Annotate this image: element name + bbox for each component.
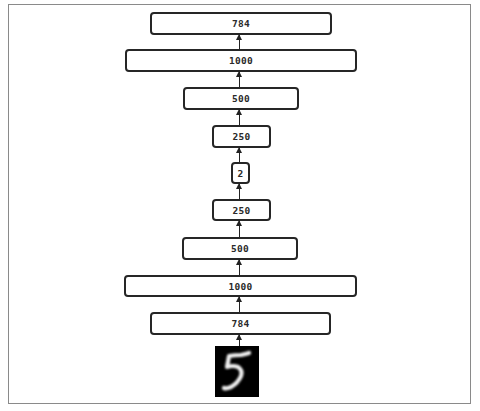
arrow-up-icon [239,297,240,312]
layer-label: 784 [231,318,249,329]
arrow-up-icon [239,184,240,199]
layer-label: 500 [231,243,249,254]
layer-encoder-1: 1000 [124,275,357,297]
arrow-up-icon [239,335,240,346]
layer-code: 2 [231,162,250,184]
layer-label: 784 [232,18,250,29]
mnist-digit-5-icon [215,346,259,397]
layer-decoder-3: 1000 [125,49,357,72]
layer-encoder-2: 500 [182,237,298,260]
layer-decoder-1: 250 [212,125,271,148]
layer-label: 1000 [229,55,253,66]
layer-encoder-3: 250 [212,199,271,221]
arrow-up-icon [239,148,240,162]
layer-input: 784 [150,312,331,335]
layer-decoder-2: 500 [183,87,299,110]
layer-label: 500 [232,93,250,104]
layer-label: 1000 [228,281,252,292]
layer-label: 250 [232,205,250,216]
arrow-up-icon [239,110,240,125]
arrow-up-icon [239,260,240,275]
arrow-up-icon [239,72,240,87]
arrow-up-icon [239,221,240,237]
layer-label: 250 [232,131,250,142]
arrow-up-icon [239,35,240,49]
layer-output: 784 [150,12,332,35]
layer-label: 2 [237,168,243,179]
